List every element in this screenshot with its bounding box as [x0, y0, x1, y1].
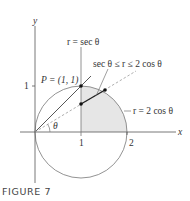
- x-axis-label: x: [177, 127, 183, 137]
- point-sec-theta: [79, 102, 83, 106]
- point-label: P = (1, 1): [40, 75, 78, 86]
- region-label: sec θ ≤ r ≤ 2 cos θ: [93, 59, 162, 69]
- angle-arc: [48, 124, 50, 132]
- shaded-region: [81, 86, 127, 132]
- polar-region-diagram: y x 1 1 2 r = sec θ sec θ ≤ r ≤ 2 cos θ …: [0, 0, 190, 201]
- line-label: r = sec θ: [67, 37, 100, 47]
- x-tick-label-2: 2: [129, 138, 134, 148]
- y-tick-label-1: 1: [24, 81, 29, 91]
- figure-caption: FIGURE 7: [2, 186, 51, 197]
- circle-label: r = 2 cos θ: [133, 106, 173, 116]
- y-axis-label: y: [32, 16, 38, 26]
- angle-label: θ: [53, 121, 58, 131]
- x-tick-label-1: 1: [79, 138, 84, 148]
- point-2cos-theta: [103, 88, 107, 92]
- point-p: [79, 84, 83, 88]
